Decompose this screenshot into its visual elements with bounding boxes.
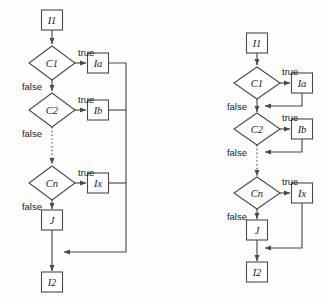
flowchart-left-node-c2[interactable]: C2 bbox=[29, 93, 75, 127]
flowchart-right-edge-label-true-c2: true bbox=[282, 112, 298, 123]
flowchart-right-node-c2[interactable]: C2 bbox=[234, 113, 280, 145]
node-c2-label: C2 bbox=[251, 124, 264, 135]
flowchart-svg: I1C1IaC2IbCnIxJI2I1C1IaC2IbCnIxJI2 truet… bbox=[0, 0, 328, 302]
flowchart-right-edge-label-false-c1: false bbox=[227, 101, 247, 112]
flowchart-left-edge-label-true-cn: true bbox=[78, 167, 94, 178]
edge-ia-to-merge bbox=[265, 93, 302, 106]
flowchart-right-edge-label-false-c2: false bbox=[227, 147, 247, 158]
nodes-layer: I1C1IaC2IbCnIxJI2I1C1IaC2IbCnIxJI2 bbox=[29, 10, 313, 292]
flowchart-right-nodes: I1C1IaC2IbCnIxJI2 bbox=[234, 33, 313, 282]
flowchart-right-edge-label-true-c1: true bbox=[282, 66, 298, 77]
diagram-canvas: I1C1IaC2IbCnIxJI2I1C1IaC2IbCnIxJI2 truet… bbox=[0, 0, 328, 302]
edge-ix-to-merge bbox=[265, 203, 302, 248]
flowchart-right-node-c1[interactable]: C1 bbox=[234, 67, 280, 99]
edge-ia-to-merge bbox=[64, 63, 126, 252]
flowchart-left-node-cn[interactable]: Cn bbox=[29, 166, 75, 200]
node-c2-label: C2 bbox=[46, 105, 59, 116]
node-ix-label: Ix bbox=[297, 188, 306, 199]
node-i2-label: I2 bbox=[47, 277, 57, 288]
flowchart-left-edge-label-false-c1: false bbox=[22, 81, 42, 92]
flowchart-right-edge-label-false-cn: false bbox=[227, 211, 247, 222]
node-ib-label: Ib bbox=[297, 124, 307, 135]
flowchart-right-node-i2[interactable]: I2 bbox=[247, 262, 268, 282]
flowchart-right-edge-label-true-cn: true bbox=[282, 176, 298, 187]
node-ib-label: Ib bbox=[93, 105, 103, 116]
node-cn-label: Cn bbox=[46, 178, 58, 189]
node-i2-label: I2 bbox=[252, 267, 262, 278]
flowchart-right-node-i1[interactable]: I1 bbox=[247, 33, 268, 53]
flowchart-right-node-j[interactable]: J bbox=[247, 220, 268, 240]
node-ia-label: Ia bbox=[297, 78, 307, 89]
node-cn-label: Cn bbox=[251, 188, 263, 199]
flowchart-right-node-cn[interactable]: Cn bbox=[234, 177, 280, 209]
flowchart-left-edge-label-false-c2: false bbox=[22, 128, 42, 139]
flowchart-left-node-i1[interactable]: I1 bbox=[42, 10, 63, 30]
flowchart-left-edge-label-true-c2: true bbox=[78, 94, 94, 105]
node-i1-label: I1 bbox=[47, 15, 57, 26]
flowchart-left-edge-label-true-c1: true bbox=[78, 47, 94, 58]
flowchart-left-node-j[interactable]: J bbox=[42, 210, 63, 230]
flowchart-left-nodes: I1C1IaC2IbCnIxJI2 bbox=[29, 10, 109, 292]
node-ia-label: Ia bbox=[93, 58, 103, 69]
node-i1-label: I1 bbox=[252, 38, 262, 49]
flowchart-left-node-c1[interactable]: C1 bbox=[29, 46, 75, 80]
node-ix-label: Ix bbox=[93, 178, 102, 189]
flowchart-left-edge-label-false-cn: false bbox=[22, 201, 42, 212]
flowchart-left-node-i2[interactable]: I2 bbox=[42, 272, 63, 292]
node-c1-label: C1 bbox=[46, 58, 58, 69]
node-c1-label: C1 bbox=[251, 78, 263, 89]
edge-ib-to-merge bbox=[265, 139, 302, 152]
